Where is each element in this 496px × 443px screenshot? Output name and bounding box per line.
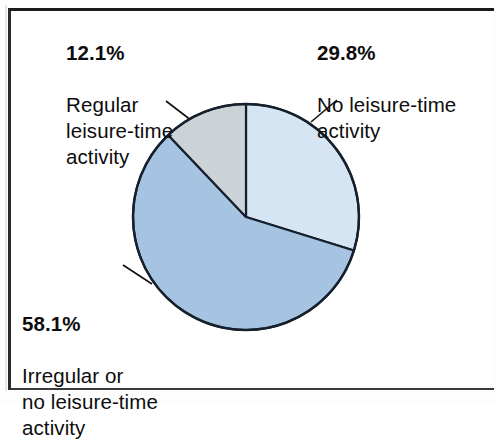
callout-description-none: No leisure-time activity <box>317 92 496 144</box>
callout-label-regular-leisure-time-activity: 12.1% Regular leisure-time activity <box>66 14 246 196</box>
frame-edge-shadow <box>5 5 7 391</box>
callout-percent-irregular: 58.1% <box>22 311 237 337</box>
callout-description-irregular: Irregular or no leisure-time activity <box>22 363 237 441</box>
callout-percent-none: 29.8% <box>317 40 496 66</box>
callout-description-regular: Regular leisure-time activity <box>66 92 246 170</box>
callout-label-irregular-or-no-leisure-time-activity: 58.1% Irregular or no leisure-time activ… <box>22 285 237 443</box>
callout-percent-regular: 12.1% <box>66 40 246 66</box>
callout-label-no-leisure-time-activity: 29.8% No leisure-time activity <box>317 14 496 170</box>
